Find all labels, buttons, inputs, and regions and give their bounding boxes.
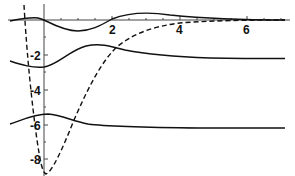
solid-curve-bottom: [10, 114, 285, 128]
chart-canvas: 2 4 6 -2 -4 -6 -8: [0, 0, 295, 176]
x-tick-label-6: 6: [243, 23, 250, 37]
y-tick-label-neg2: -2: [30, 49, 41, 63]
x-tick-label-2: 2: [109, 23, 116, 37]
solid-curve-middle: [10, 45, 285, 67]
y-tick-label-neg8: -8: [30, 153, 41, 167]
x-tick-label-4: 4: [176, 23, 183, 37]
y-axis-ticks: [44, 37, 48, 159]
